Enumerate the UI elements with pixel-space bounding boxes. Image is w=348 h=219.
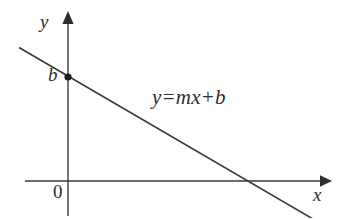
x-axis-arrowhead <box>320 175 332 187</box>
equation-plus-sign: + <box>201 85 215 109</box>
origin-label: 0 <box>53 182 63 201</box>
y-intercept-label: b <box>48 65 58 84</box>
y-axis-label: y <box>40 12 48 31</box>
y-axis-arrowhead <box>62 11 73 24</box>
x-axis-label: x <box>313 185 321 204</box>
y-intercept-dot <box>64 73 71 80</box>
equation-annotation: y=mx+b <box>152 87 226 108</box>
equation-lhs: y <box>152 85 162 109</box>
equation-slope-term: mx <box>176 85 201 109</box>
equation-intercept-term: b <box>215 85 226 109</box>
function-line <box>19 48 313 219</box>
linear-function-graph: y b 0 x y=mx+b <box>0 0 348 218</box>
equation-equals-sign: = <box>162 85 176 109</box>
